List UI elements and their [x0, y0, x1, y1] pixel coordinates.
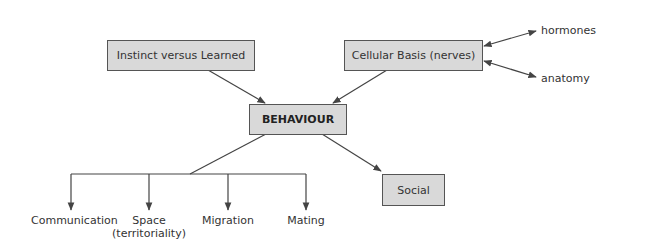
behaviour-box: BEHAVIOUR	[249, 104, 347, 135]
instinct-label: Instinct versus Learned	[117, 49, 245, 62]
branch-label: Migration	[188, 214, 268, 227]
cellular-label: Cellular Basis (nerves)	[352, 49, 476, 62]
behaviour-label: BEHAVIOUR	[262, 113, 334, 126]
social-label: Social	[397, 184, 430, 197]
cellular-box: Cellular Basis (nerves)	[344, 40, 483, 71]
social-box: Social	[382, 174, 445, 206]
hormones-label: hormones	[541, 24, 596, 37]
branch-sublabel: (territoriality)	[109, 227, 189, 240]
branch-label: Space	[109, 214, 189, 227]
anatomy-label: anatomy	[541, 72, 590, 85]
branch-migration: Migration	[188, 214, 268, 227]
branch-label: Communication	[31, 214, 111, 227]
branch-mating: Mating	[266, 214, 346, 227]
branch-space: Space (territoriality)	[109, 214, 189, 240]
branch-communication: Communication	[31, 214, 111, 227]
branch-label: Mating	[266, 214, 346, 227]
instinct-box: Instinct versus Learned	[107, 40, 255, 71]
